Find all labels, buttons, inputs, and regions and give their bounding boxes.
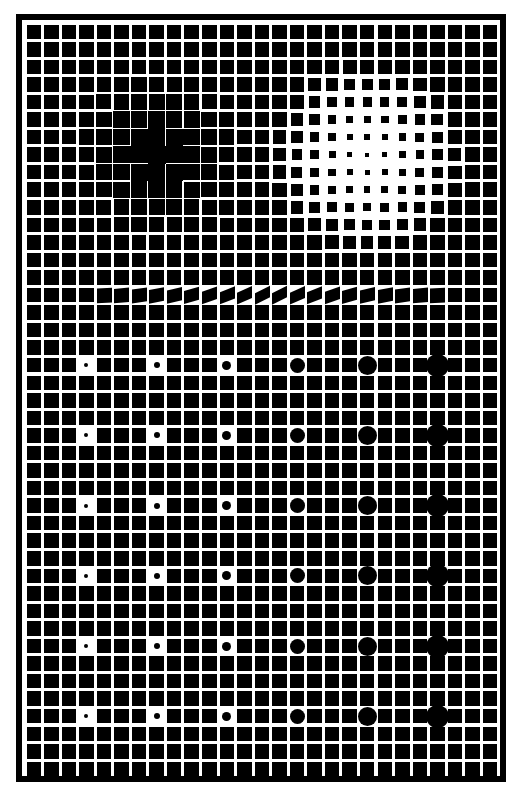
- grid-square: [202, 586, 217, 601]
- grid-square: [483, 639, 498, 654]
- grid-square: [255, 253, 270, 268]
- grid-square: [272, 604, 287, 619]
- grid-square: [202, 551, 217, 566]
- grid-square: [114, 569, 129, 584]
- dot-circle: [358, 356, 377, 375]
- grid-square: [344, 79, 355, 90]
- dot-circle: [222, 571, 231, 580]
- grid-square: [149, 656, 164, 671]
- grid-square: [413, 358, 428, 373]
- grid-square: [272, 762, 287, 777]
- grid-square: [448, 77, 463, 92]
- grid-square: [378, 639, 393, 654]
- grid-square: [149, 340, 164, 355]
- grid-square: [97, 446, 112, 461]
- grid-square: [325, 60, 340, 75]
- grid-square: [220, 604, 235, 619]
- grid-square: [413, 656, 428, 671]
- grid-square: [202, 60, 217, 75]
- grid-square: [97, 323, 112, 338]
- grid-square: [395, 604, 410, 619]
- grid-square: [290, 656, 305, 671]
- grid-square: [432, 149, 443, 160]
- grid-square: [395, 586, 410, 601]
- grid-square: [483, 60, 498, 75]
- grid-square: [27, 446, 42, 461]
- grid-square: [360, 586, 375, 601]
- grid-square: [342, 569, 357, 584]
- grid-square: [272, 253, 287, 268]
- grid-square: [201, 164, 217, 180]
- grid-square: [27, 463, 42, 478]
- grid-square: [308, 78, 322, 92]
- grid-square: [325, 393, 340, 408]
- grid-square: [62, 656, 77, 671]
- grid-square: [62, 744, 77, 759]
- grid-square: [290, 411, 305, 426]
- grid-square: [430, 340, 445, 355]
- grid-square: [131, 181, 147, 197]
- grid-square: [149, 533, 164, 548]
- grid-square: [184, 111, 200, 127]
- grid-square: [325, 287, 340, 304]
- grid-square: [325, 446, 340, 461]
- grid-square: [342, 691, 357, 706]
- grid-square: [307, 305, 322, 320]
- grid-square: [184, 340, 199, 355]
- grid-square: [290, 235, 305, 250]
- grid-square: [202, 358, 217, 373]
- grid-square: [237, 376, 252, 391]
- grid-square: [79, 446, 94, 461]
- grid-square: [97, 463, 112, 478]
- grid-square: [255, 446, 270, 461]
- grid-square: [149, 305, 164, 320]
- grid-square: [413, 78, 426, 91]
- grid-square: [255, 270, 270, 285]
- grid-square: [202, 340, 217, 355]
- grid-square: [202, 235, 217, 250]
- grid-square: [220, 235, 235, 250]
- grid-square: [272, 551, 287, 566]
- grid-square: [148, 111, 165, 128]
- grid-square: [255, 77, 270, 92]
- grid-square: [483, 498, 498, 513]
- grid-square: [27, 340, 42, 355]
- grid-square: [342, 411, 357, 426]
- grid-square: [255, 182, 270, 197]
- grid-square: [290, 95, 304, 109]
- grid-square: [272, 533, 287, 548]
- grid-square: [62, 147, 77, 162]
- grid-square: [44, 42, 59, 57]
- grid-square: [44, 533, 59, 548]
- grid-square: [413, 340, 428, 355]
- grid-square: [465, 165, 480, 180]
- grid-square: [483, 744, 498, 759]
- grid-square: [307, 744, 322, 759]
- grid-square: [448, 744, 463, 759]
- grid-square: [483, 270, 498, 285]
- grid-square: [149, 463, 164, 478]
- grid-square: [413, 393, 428, 408]
- grid-square: [202, 305, 217, 320]
- grid-square: [325, 42, 340, 57]
- grid-square: [184, 498, 199, 513]
- grid-square: [167, 516, 182, 531]
- grid-square: [44, 674, 59, 689]
- grid-square: [27, 25, 42, 40]
- dot-circle: [290, 568, 305, 583]
- grid-square: [310, 132, 319, 141]
- grid-square: [325, 376, 340, 391]
- grid-square: [114, 498, 129, 513]
- grid-square: [237, 691, 252, 706]
- dot-circle: [426, 424, 449, 447]
- grid-square: [97, 25, 112, 40]
- grid-square: [220, 463, 235, 478]
- grid-square: [237, 551, 252, 566]
- grid-square: [413, 305, 428, 320]
- grid-square: [114, 656, 129, 671]
- grid-square: [342, 639, 357, 654]
- grid-square: [220, 42, 235, 57]
- grid-square: [114, 217, 129, 232]
- grid-square: [62, 516, 77, 531]
- grid-square: [167, 235, 182, 250]
